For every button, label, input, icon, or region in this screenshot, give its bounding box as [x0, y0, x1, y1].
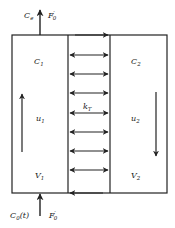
- compartment-diagram: Ce F′0 C0(t) F′0 C1 u1 V1 C2 u2 V2 kT: [0, 0, 175, 228]
- u1-label: u1: [36, 114, 45, 124]
- c1-label: C1: [34, 57, 44, 67]
- inlet-flow-label: F′0: [48, 210, 58, 221]
- exchange-arrows: [70, 55, 108, 170]
- outlet-flow-label: F′0: [47, 10, 57, 21]
- v2-label: V2: [131, 171, 141, 181]
- outlet-concentration-label: Ce: [24, 11, 34, 21]
- kt-label: kT: [83, 102, 92, 112]
- u2-label: u2: [131, 114, 140, 124]
- c2-label: C2: [131, 57, 141, 67]
- v1-label: V1: [35, 171, 44, 181]
- inlet-concentration-label: C0(t): [10, 211, 29, 221]
